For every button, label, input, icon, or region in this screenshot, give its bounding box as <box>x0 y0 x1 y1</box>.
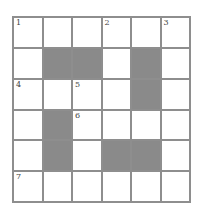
crossword-cell[interactable] <box>14 49 42 78</box>
crossword-cell[interactable] <box>103 49 131 78</box>
block-cell <box>132 49 160 78</box>
clue-number: 2 <box>105 19 110 27</box>
block-cell <box>44 111 72 140</box>
crossword-cell[interactable] <box>103 80 131 109</box>
crossword-cell[interactable] <box>73 141 101 170</box>
crossword-grid: 1234567 <box>12 16 191 203</box>
crossword-cell[interactable] <box>162 141 190 170</box>
block-cell <box>132 141 160 170</box>
crossword-cell[interactable] <box>73 172 101 201</box>
clue-number: 6 <box>75 112 80 120</box>
block-cell <box>44 141 72 170</box>
crossword-cell[interactable] <box>162 111 190 140</box>
crossword-cell[interactable] <box>103 111 131 140</box>
block-cell <box>44 49 72 78</box>
block-cell <box>103 141 131 170</box>
block-cell <box>132 80 160 109</box>
crossword-cell[interactable] <box>44 172 72 201</box>
crossword-cell[interactable]: 1 <box>14 18 42 47</box>
crossword-cell[interactable]: 5 <box>73 80 101 109</box>
crossword-cell[interactable] <box>162 80 190 109</box>
crossword-cell[interactable] <box>14 141 42 170</box>
crossword-cell[interactable] <box>132 172 160 201</box>
crossword-cell[interactable] <box>132 18 160 47</box>
clue-number: 4 <box>16 81 21 89</box>
block-cell <box>73 49 101 78</box>
crossword-cell[interactable] <box>44 80 72 109</box>
crossword-cell[interactable] <box>103 172 131 201</box>
clue-number: 5 <box>75 81 80 89</box>
clue-number: 3 <box>164 19 169 27</box>
crossword-cell[interactable]: 7 <box>14 172 42 201</box>
clue-number: 7 <box>16 173 21 181</box>
crossword-cell[interactable]: 3 <box>162 18 190 47</box>
crossword-cell[interactable] <box>44 18 72 47</box>
crossword-cell[interactable]: 2 <box>103 18 131 47</box>
crossword-cell[interactable] <box>73 18 101 47</box>
crossword-cell[interactable]: 6 <box>73 111 101 140</box>
clue-number: 1 <box>16 19 21 27</box>
crossword-cell[interactable]: 4 <box>14 80 42 109</box>
crossword-cell[interactable] <box>162 172 190 201</box>
crossword-cell[interactable] <box>162 49 190 78</box>
crossword-cell[interactable] <box>132 111 160 140</box>
crossword-cell[interactable] <box>14 111 42 140</box>
